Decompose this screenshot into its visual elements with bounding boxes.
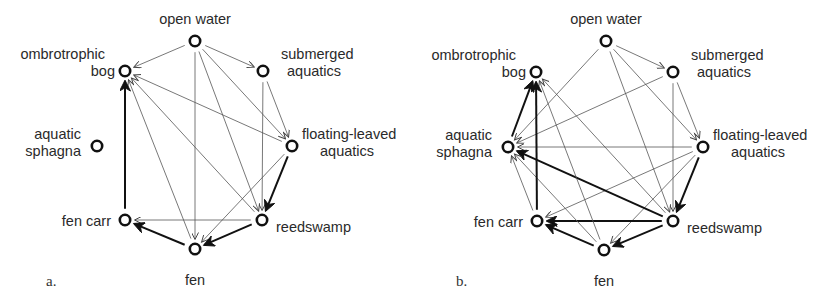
panel-a-labels: open waterombrotrophicbogsubmergedaquati…	[20, 11, 396, 288]
label-line: aquatics	[731, 144, 785, 160]
edge-floating-leaved-aquatics-to-ombrotrophic-bog	[134, 75, 281, 141]
node-submerged-aquatics	[668, 67, 678, 77]
panel-b-labels: open waterombrotrophicbogsubmergedaquati…	[431, 11, 807, 289]
label-ombrotrophic-bog: ombrotrophicbog	[431, 47, 526, 80]
edge-fen-to-fen-carr	[134, 224, 184, 245]
panel-a-label: a.	[46, 273, 56, 289]
label-floating-leaved-aquatics: floating-leavedaquatics	[713, 127, 807, 160]
label-line: submerged	[691, 47, 764, 63]
edge-submerged-aquatics-to-floating-leaved-aquatics	[267, 81, 288, 136]
node-aquatic-sphagna	[92, 141, 102, 151]
node-fen-carr	[120, 215, 130, 225]
succession-diagram: open waterombrotrophicbogsubmergedaquati…	[0, 0, 840, 306]
node-fen-carr	[532, 216, 542, 226]
node-ombrotrophic-bog	[120, 66, 130, 76]
label-fen: fen	[594, 273, 614, 289]
node-ombrotrophic-bog	[531, 67, 541, 77]
label-line: open water	[570, 11, 642, 27]
label-reedswamp: reedswamp	[687, 220, 762, 236]
panel-b-label: b.	[456, 273, 467, 289]
label-line: aquatics	[320, 143, 374, 159]
label-aquatic-sphagna: aquaticsphagna	[25, 126, 82, 159]
node-fen	[190, 244, 200, 254]
edge-open-water-to-submerged-aquatics	[205, 46, 253, 67]
edge-reedswamp-to-ombrotrophic-bog	[543, 80, 666, 213]
edge-floating-leaved-aquatics-to-fen-carr	[546, 152, 692, 217]
label-aquatic-sphagna: aquaticsphagna	[436, 127, 493, 160]
edge-reedswamp-to-ombrotrophic-bog	[132, 79, 255, 212]
label-line: reedswamp	[687, 220, 762, 236]
label-reedswamp: reedswamp	[276, 219, 351, 235]
node-submerged-aquatics	[258, 66, 268, 76]
edge-floating-leaved-aquatics-to-reedswamp	[677, 157, 699, 211]
edge-open-water-to-submerged-aquatics	[616, 46, 664, 68]
edge-submerged-aquatics-to-floating-leaved-aquatics	[677, 82, 699, 137]
edge-submerged-aquatics-to-aquatic-sphagna	[517, 77, 663, 143]
node-open-water	[190, 36, 200, 46]
node-floating-leaved-aquatics	[287, 141, 297, 151]
label-line: sphagna	[25, 143, 82, 159]
label-line: fen carr	[62, 213, 111, 229]
node-reedswamp	[257, 215, 267, 225]
label-line: aquatics	[287, 63, 341, 79]
label-line: reedswamp	[276, 219, 351, 235]
label-line: fen	[594, 273, 614, 289]
edge-open-water-to-reedswamp	[610, 51, 670, 211]
label-line: aquatic	[445, 127, 492, 143]
label-fen-carr: fen carr	[474, 214, 523, 230]
label-fen: fen	[185, 272, 205, 288]
label-submerged-aquatics: submergedaquatics	[281, 46, 354, 79]
edge-submerged-aquatics-to-reedswamp	[262, 82, 263, 210]
edge-reedswamp-to-fen	[613, 225, 662, 246]
node-reedswamp	[668, 216, 678, 226]
edge-fen-to-fen-carr	[546, 225, 593, 245]
edge-reedswamp-to-aquatic-sphagna	[517, 151, 662, 216]
node-fen	[599, 245, 609, 255]
label-floating-leaved-aquatics: floating-leavedaquatics	[302, 126, 396, 159]
panel-a: open waterombrotrophicbogsubmergedaquati…	[20, 11, 396, 289]
label-line: fen carr	[474, 214, 523, 230]
panel-b-nodes	[503, 36, 708, 255]
label-line: floating-leaved	[713, 127, 807, 143]
label-ombrotrophic-bog: ombrotrophicbog	[20, 46, 115, 79]
edge-fen-to-ombrotrophic-bog	[129, 80, 191, 238]
label-fen-carr: fen carr	[62, 213, 111, 229]
edge-open-water-to-ombrotrophic-bog	[134, 45, 184, 67]
edge-reedswamp-to-fen	[204, 224, 251, 244]
panel-a-nodes	[92, 36, 297, 254]
label-line: submerged	[281, 46, 354, 62]
label-line: fen	[185, 272, 205, 288]
edge-floating-leaved-aquatics-to-reedswamp	[266, 156, 288, 210]
edge-fen-carr-to-ombrotrophic-bog	[536, 82, 537, 210]
label-open-water: open water	[570, 11, 642, 27]
label-line: aquatic	[34, 126, 81, 142]
label-line: open water	[159, 11, 231, 27]
node-aquatic-sphagna	[503, 142, 513, 152]
label-line: ombrotrophic	[20, 46, 105, 62]
node-open-water	[601, 36, 611, 46]
edge-aquatic-sphagna-to-ombrotrophic-bog	[512, 82, 533, 137]
edge-fen-carr-to-aquatic-sphagna	[512, 156, 533, 210]
label-line: floating-leaved	[302, 126, 396, 142]
edge-open-water-to-reedswamp	[199, 51, 258, 210]
label-line: bog	[502, 64, 526, 80]
label-line: sphagna	[436, 144, 493, 160]
label-line: ombrotrophic	[431, 47, 516, 63]
node-floating-leaved-aquatics	[698, 142, 708, 152]
label-open-water: open water	[159, 11, 231, 27]
panel-b: open waterombrotrophicbogsubmergedaquati…	[431, 11, 807, 289]
label-submerged-aquatics: submergedaquatics	[691, 47, 764, 80]
label-line: aquatics	[697, 64, 751, 80]
label-line: bog	[91, 63, 115, 79]
